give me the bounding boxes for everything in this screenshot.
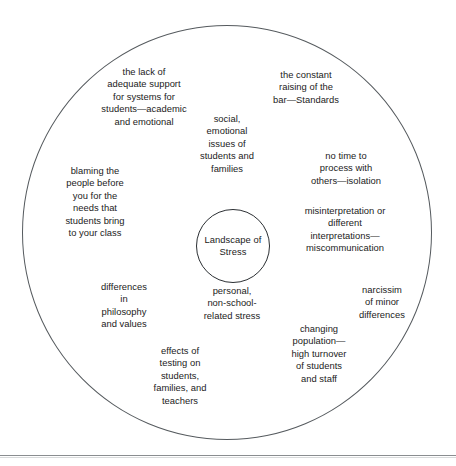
stressor-no-time: no time to process with others—isolation bbox=[290, 150, 402, 187]
stressor-narcissim: narcissim of minor differences bbox=[334, 284, 430, 321]
diagram-page: Landscape of Stress the lack of adequate… bbox=[0, 0, 456, 466]
stressor-personal-stress: personal, non-school- related stress bbox=[181, 285, 283, 322]
stressor-changing-population: changing population— high turnover of st… bbox=[272, 323, 366, 385]
stressor-social-emotional: social, emotional issues of students and… bbox=[185, 113, 269, 175]
core-label: Landscape of Stress bbox=[197, 234, 269, 258]
page-bottom-rule bbox=[0, 455, 456, 456]
stressor-differences-philosophy: differences in philosophy and values bbox=[78, 281, 170, 331]
stressor-blaming: blaming the people before you for the ne… bbox=[45, 165, 145, 239]
page-bottom-rule-shadow bbox=[0, 457, 456, 458]
stressor-raising-the-bar: the constant raising of the bar—Standard… bbox=[252, 69, 360, 106]
stressor-effects-of-testing: effects of testing on students, families… bbox=[132, 345, 228, 407]
stressor-misinterpretation: misinterpretation or different interpret… bbox=[277, 205, 413, 255]
core-circle: Landscape of Stress bbox=[196, 209, 270, 283]
